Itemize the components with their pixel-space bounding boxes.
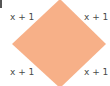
- side-label-bottom-left: x + 1: [10, 67, 34, 77]
- side-label-top-right: x + 1: [84, 12, 108, 22]
- side-label-bottom-right: x + 1: [84, 67, 108, 77]
- side-label-top-left: x + 1: [10, 12, 34, 22]
